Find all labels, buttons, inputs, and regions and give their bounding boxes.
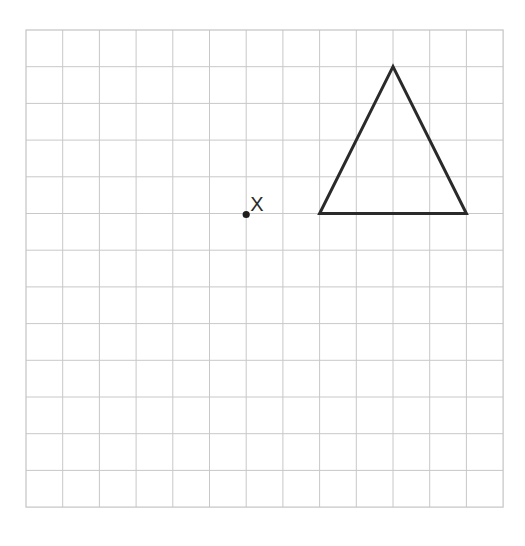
square-grid <box>26 30 503 507</box>
grid-border <box>26 30 503 507</box>
center-of-enlargement-dot <box>243 211 250 218</box>
center-of-enlargement-label: X <box>250 193 263 215</box>
grid-diagram: X <box>0 0 525 546</box>
